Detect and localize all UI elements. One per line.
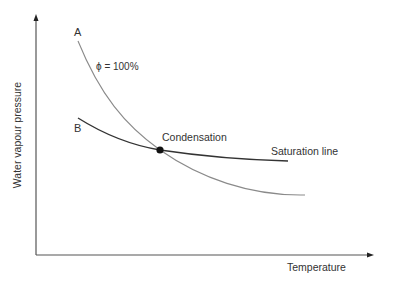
phi-annotation: ϕ = 100% — [96, 61, 139, 72]
curve-b-label: B — [74, 122, 81, 134]
y-axis-label: Water vapour pressure — [11, 82, 23, 189]
curve-a-label: A — [74, 26, 82, 38]
condensation-label: Condensation — [162, 131, 227, 143]
condensation-point — [156, 146, 163, 153]
x-axis-arrow-icon — [367, 253, 374, 258]
diagram-canvas: A B ϕ = 100% Condensation Saturation lin… — [0, 0, 394, 283]
y-axis-arrow-icon — [34, 14, 39, 21]
x-axis-label: Temperature — [287, 261, 346, 273]
saturation-line-label: Saturation line — [271, 145, 338, 157]
